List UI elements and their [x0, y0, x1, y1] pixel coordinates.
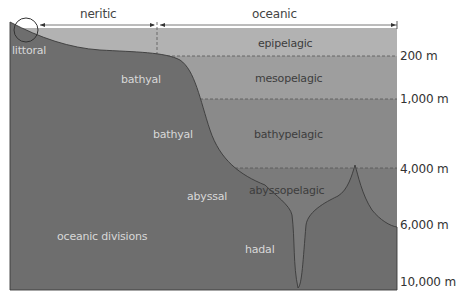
abyssopelagic-label: abyssopelagic: [249, 184, 324, 197]
oceanic-label: oceanic: [252, 7, 297, 21]
depth-label-10000: 10,000 m: [400, 275, 456, 289]
hadal-label: hadal: [245, 243, 275, 256]
arrowhead-icon: [160, 23, 165, 27]
arrowhead-icon: [391, 23, 396, 27]
arrowhead-icon: [40, 23, 45, 27]
mesopelagic-label: mesopelagic: [255, 72, 322, 85]
bathyal-upper-label: bathyal: [121, 73, 161, 86]
arrowhead-icon: [150, 23, 155, 27]
diagram-title: oceanic divisions: [57, 230, 147, 243]
neritic-label: neritic: [80, 7, 117, 21]
depth-label-6000: 6,000 m: [400, 218, 448, 232]
bathyal-lower-label: bathyal: [153, 128, 193, 141]
littoral-label: littoral: [12, 44, 46, 57]
depth-label-4000: 4,000 m: [400, 162, 448, 176]
depth-label-200: 200 m: [400, 49, 437, 63]
epipelagic-label: epipelagic: [258, 37, 312, 50]
depth-label-1000: 1,000 m: [400, 92, 448, 106]
abyssal-label: abyssal: [187, 190, 227, 203]
bathypelagic-label: bathypelagic: [254, 128, 323, 141]
